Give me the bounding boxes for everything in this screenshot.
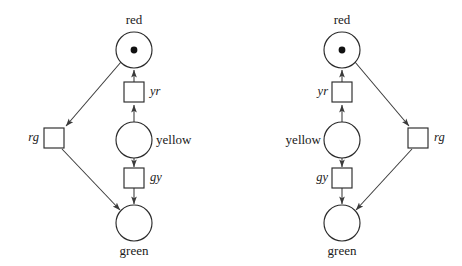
diagram-left [44, 32, 152, 241]
petri-net-canvas [0, 0, 462, 266]
label-left-yellow: yellow [156, 133, 191, 146]
transition-left-rg [44, 128, 64, 148]
label-right-yr: yr [318, 85, 328, 98]
arc-left-red-to-rg [66, 62, 121, 126]
label-left-gy: gy [150, 171, 162, 184]
place-right-yellow [324, 122, 360, 158]
token-right-red [339, 47, 346, 54]
place-right-green [324, 205, 360, 241]
transition-left-gy [124, 168, 144, 188]
arc-left-rg-to-green [62, 149, 120, 210]
token-left-red [131, 47, 138, 54]
label-right-red: red [334, 13, 351, 26]
label-right-green: green [328, 244, 357, 257]
transition-left-yr [124, 82, 144, 102]
petri-net-figure: red yellow green yr gy rg red yellow gre… [0, 0, 462, 266]
transition-right-yr [332, 82, 352, 102]
arc-right-red-to-rg [355, 62, 409, 126]
diagram-right [324, 32, 428, 241]
arc-right-rg-to-green [356, 149, 412, 210]
place-left-yellow [116, 122, 152, 158]
transition-right-rg [408, 128, 428, 148]
place-left-green [116, 205, 152, 241]
label-left-yr: yr [150, 85, 160, 98]
label-right-gy: gy [316, 171, 328, 184]
transition-right-gy [332, 168, 352, 188]
label-left-red: red [126, 13, 143, 26]
label-left-green: green [120, 244, 149, 257]
label-right-rg: rg [434, 131, 445, 144]
label-left-rg: rg [28, 131, 39, 144]
label-right-yellow: yellow [286, 133, 321, 146]
